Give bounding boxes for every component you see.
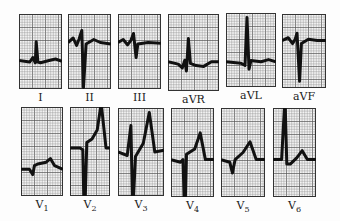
ecg-grid [168, 14, 219, 91]
lead-label-ii: II [68, 91, 111, 104]
lead-panel-ii [68, 14, 111, 89]
lead-panel-i [19, 14, 62, 89]
lead-panel-v2 [70, 107, 110, 196]
ecg-grid [226, 13, 276, 87]
lead-label-avf: aVF [282, 90, 326, 103]
lead-label-v3: V3 [118, 198, 164, 213]
lead-label-iii: III [118, 91, 161, 104]
lead-panel-iii [118, 14, 161, 89]
lead-panel-avf [282, 14, 326, 88]
lead-panel-v5 [221, 108, 265, 197]
ecg-grid [21, 107, 63, 196]
ecg-grid [171, 108, 214, 197]
ecg-grid [19, 14, 62, 89]
lead-panel-v6 [273, 108, 316, 197]
ecg-grid [273, 108, 316, 197]
lead-panel-avl [226, 13, 276, 87]
ecg-grid [70, 107, 110, 196]
lead-label-i: I [19, 91, 62, 104]
lead-label-v6: V6 [273, 199, 316, 214]
lead-label-v4: V4 [171, 199, 214, 214]
lead-label-avr: aVR [168, 93, 219, 106]
ecg-grid [282, 14, 326, 88]
lead-panel-v3 [118, 108, 164, 196]
ecg-grid [118, 14, 161, 89]
lead-panel-v1 [21, 107, 63, 196]
ecg-grid [68, 14, 111, 89]
lead-label-v5: V5 [221, 199, 265, 214]
lead-panel-v4 [171, 108, 214, 197]
ecg-grid [118, 108, 164, 196]
lead-label-v2: V2 [70, 198, 110, 213]
ecg-figure: IIIIIIaVRaVLaVFV1V2V3V4V5V6 [0, 0, 340, 221]
ecg-grid [221, 108, 265, 197]
lead-panel-avr [168, 14, 219, 91]
lead-label-v1: V1 [21, 198, 63, 213]
lead-label-avl: aVL [226, 89, 276, 102]
